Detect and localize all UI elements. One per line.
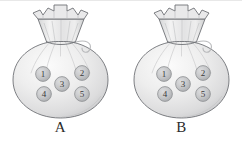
ball-3: 3 — [55, 77, 70, 92]
bag-a-illustration: 1 2 3 4 5 — [0, 1, 121, 123]
ball-5: 5 — [75, 87, 90, 102]
ball-3-number: 3 — [60, 79, 65, 89]
ball-2-number: 2 — [80, 68, 85, 78]
ball-2: 2 — [75, 66, 90, 81]
bag-a: 1 2 3 4 5 A — [0, 1, 121, 142]
ball-1: 1 — [157, 67, 172, 82]
ball-3-number: 3 — [181, 79, 186, 89]
ball-1: 1 — [36, 67, 51, 82]
bag-b: 1 2 3 4 5 B — [121, 1, 242, 142]
ball-4: 4 — [158, 87, 173, 102]
ball-3: 3 — [176, 77, 191, 92]
ball-5-number: 5 — [80, 89, 85, 99]
ball-1-number: 1 — [41, 69, 46, 79]
bag-neck — [38, 19, 84, 45]
bag-crown-top — [154, 5, 209, 19]
bag-crown-top — [33, 5, 88, 19]
ball-5-number: 5 — [201, 89, 206, 99]
ball-5: 5 — [196, 87, 211, 102]
bag-b-label: B — [121, 120, 242, 135]
ball-4-number: 4 — [163, 89, 168, 99]
ball-2: 2 — [196, 66, 211, 81]
figure-canvas: 1 2 3 4 5 A — [0, 0, 242, 142]
ball-2-number: 2 — [201, 68, 206, 78]
bag-a-label: A — [0, 120, 121, 135]
bag-b-illustration: 1 2 3 4 5 — [121, 1, 242, 123]
ball-1-number: 1 — [162, 69, 167, 79]
bag-neck — [159, 19, 205, 45]
ball-4-number: 4 — [42, 89, 47, 99]
ball-4: 4 — [37, 87, 52, 102]
